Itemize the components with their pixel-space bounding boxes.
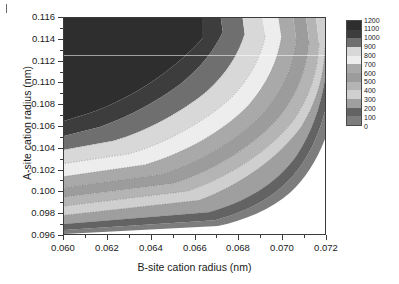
figure-root: 0.0960.0980.1000.1020.1040.1060.1080.110…	[0, 0, 399, 284]
colorbar-tick-label: 300	[364, 96, 376, 103]
colorbar-tick-labels: 1200110010009008007006005004003002001000	[364, 14, 394, 134]
x-axis-minor-tick	[216, 235, 217, 238]
x-axis-tick	[282, 235, 283, 240]
y-axis-minor-tick	[60, 137, 63, 138]
x-axis-tick	[107, 235, 108, 240]
x-axis-tick-label: 0.064	[129, 243, 173, 253]
colorbar	[346, 20, 362, 126]
y-axis-minor-tick	[60, 72, 63, 73]
y-axis-minor-tick	[60, 115, 63, 116]
colorbar-tick-label: 1000	[364, 34, 380, 41]
colorbar-tick-label: 0	[364, 123, 368, 130]
x-axis-tick-label: 0.072	[304, 243, 348, 253]
x-axis-tick	[238, 235, 239, 240]
y-axis-minor-tick	[60, 180, 63, 181]
contour-plot-area	[63, 17, 326, 235]
x-axis-tick	[195, 235, 196, 240]
x-axis-tick	[151, 235, 152, 240]
x-axis-minor-tick	[260, 235, 261, 238]
y-axis-tick	[58, 148, 63, 149]
colorbar-tick-label: 200	[364, 105, 376, 112]
y-axis-tick	[58, 82, 63, 83]
x-axis-tick-label: 0.062	[85, 243, 129, 253]
x-axis-tick-label: 0.060	[41, 243, 85, 253]
x-axis-tick-label: 0.066	[173, 243, 217, 253]
colorbar-tick-label: 600	[364, 70, 376, 77]
y-axis-tick	[58, 191, 63, 192]
y-axis-tick-label: 0.098	[9, 208, 55, 218]
y-axis-tick-label: 0.096	[9, 230, 55, 240]
colorbar-tick-label: 500	[364, 78, 376, 85]
colorbar-tick-label: 100	[364, 114, 376, 121]
x-axis-title: B-site cation radius (nm)	[63, 261, 326, 273]
x-axis-tick-label: 0.070	[260, 243, 304, 253]
y-axis-tick	[58, 126, 63, 127]
x-axis-tick	[63, 235, 64, 240]
y-axis-tick	[58, 17, 63, 18]
y-axis-minor-tick	[60, 93, 63, 94]
colorbar-tick-label: 700	[364, 61, 376, 68]
y-axis-tick	[58, 39, 63, 40]
colorbar-band	[347, 116, 361, 125]
colorbar-tick-label: 1200	[364, 17, 380, 24]
x-axis-minor-tick	[129, 235, 130, 238]
x-axis-tick-label: 0.068	[216, 243, 260, 253]
y-axis-minor-tick	[60, 50, 63, 51]
colorbar-tick-label: 400	[364, 87, 376, 94]
x-axis-tick	[326, 235, 327, 240]
corner-artifact-mark	[6, 4, 7, 13]
y-axis-minor-tick	[60, 28, 63, 29]
y-axis-minor-tick	[60, 202, 63, 203]
y-axis-tick-label: 0.116	[9, 12, 55, 22]
y-axis-minor-tick	[60, 224, 63, 225]
y-axis-tick	[58, 61, 63, 62]
y-axis-tick	[58, 170, 63, 171]
y-axis-title: A-site cation radius (nm)	[21, 43, 33, 203]
y-axis-tick	[58, 213, 63, 214]
y-axis-tick	[58, 104, 63, 105]
colorbar-tick-label: 800	[364, 52, 376, 59]
x-axis-minor-tick	[304, 235, 305, 238]
x-axis-minor-tick	[85, 235, 86, 238]
y-axis-minor-tick	[60, 159, 63, 160]
colorbar-tick-label: 900	[364, 43, 376, 50]
x-axis-minor-tick	[173, 235, 174, 238]
colorbar-tick-label: 1100	[364, 25, 379, 32]
contour-field	[64, 18, 325, 234]
